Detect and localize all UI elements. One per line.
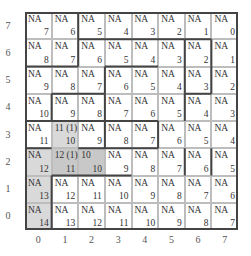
x-axis-label: 5	[165, 234, 177, 245]
y-axis-label: 1	[2, 183, 14, 194]
x-axis-label: 1	[59, 234, 71, 245]
x-axis-label: 4	[139, 234, 151, 245]
x-axis-label: 3	[112, 234, 124, 245]
y-axis-label: 7	[2, 20, 14, 31]
x-axis-label: 0	[32, 234, 44, 245]
y-axis-label: 6	[2, 47, 14, 58]
x-axis-label: 7	[219, 234, 231, 245]
x-axis-label: 6	[192, 234, 204, 245]
y-axis-label: 3	[2, 129, 14, 140]
y-axis-label: 5	[2, 74, 14, 85]
y-axis-label: 2	[2, 156, 14, 167]
grid-world: NA7NA8NA9NA10NA11NA12NA13NA14NA6NA7NA8NA…	[25, 12, 238, 230]
x-axis-label: 2	[86, 234, 98, 245]
walls	[25, 12, 238, 230]
y-axis-label: 4	[2, 101, 14, 112]
y-axis-label: 0	[2, 210, 14, 221]
